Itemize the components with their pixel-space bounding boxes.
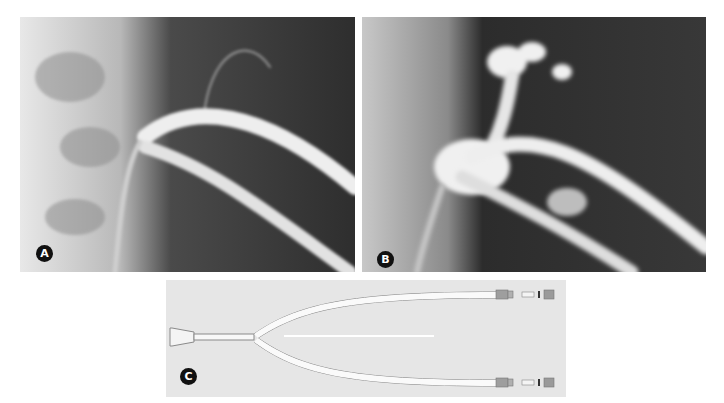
panel-label-a: A <box>36 245 53 262</box>
panel-label-c: C <box>180 368 197 385</box>
panel-b-radiograph: B <box>362 17 706 272</box>
panel-label-b: B <box>377 251 394 268</box>
lower-connector <box>496 378 554 387</box>
upper-connector <box>496 290 554 299</box>
panel-c-device-photo: C <box>166 280 566 397</box>
y-catheter-illustration <box>166 280 566 397</box>
panel-b-image <box>362 17 706 272</box>
panel-a-image <box>20 17 355 272</box>
panel-a-radiograph: A <box>20 17 355 272</box>
